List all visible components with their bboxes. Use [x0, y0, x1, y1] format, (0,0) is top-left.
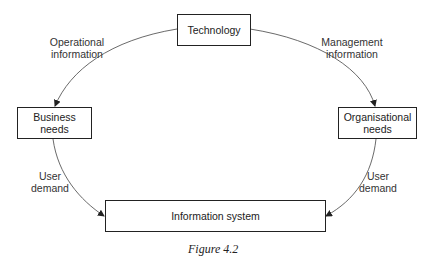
node-technology: Technology	[177, 14, 251, 46]
edge-label-operational-information: Operational information	[44, 37, 110, 60]
node-information-system: Information system	[105, 200, 326, 232]
node-business-needs-label: Business needs	[33, 111, 76, 135]
node-organisational-needs: Organisational needs	[338, 107, 417, 139]
node-information-system-label: Information system	[171, 210, 260, 222]
node-organisational-needs-label: Organisational needs	[344, 111, 412, 135]
node-business-needs: Business needs	[17, 107, 92, 139]
edge-label-user-demand-right: User demand	[358, 171, 398, 194]
edge-label-user-demand-left: User demand	[30, 171, 70, 194]
figure-caption: Figure 4.2	[188, 242, 238, 257]
node-technology-label: Technology	[187, 24, 240, 36]
edge-label-management-information: Management information	[316, 37, 388, 60]
